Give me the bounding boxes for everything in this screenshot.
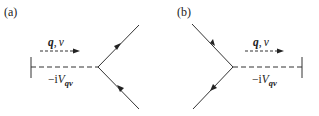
- momentum-arrow-a: [40, 49, 80, 54]
- fermion-line-upper-a: [0, 0, 139, 67]
- momentum-arrow-b: [245, 49, 284, 54]
- panel-b: (b) q,ν −iVqν: [177, 5, 302, 109]
- vertex-label-a: −iVqν: [48, 73, 73, 88]
- panel-b-label: (b): [177, 5, 191, 19]
- feynman-vertex-diagrams: (a) q,ν −iVqν (b): [0, 0, 319, 116]
- panel-a: (a) q,ν −iVqν: [0, 0, 139, 109]
- fermion-line-lower-b: [193, 67, 233, 109]
- vertex-label-b: −iVqν: [252, 73, 277, 88]
- panel-a-label: (a): [4, 5, 17, 19]
- momentum-label-a: q,ν: [48, 36, 65, 49]
- momentum-label-b: q,ν: [253, 36, 270, 49]
- fermion-line-lower-a: [98, 67, 139, 109]
- fermion-line-upper-b: [192, 24, 233, 67]
